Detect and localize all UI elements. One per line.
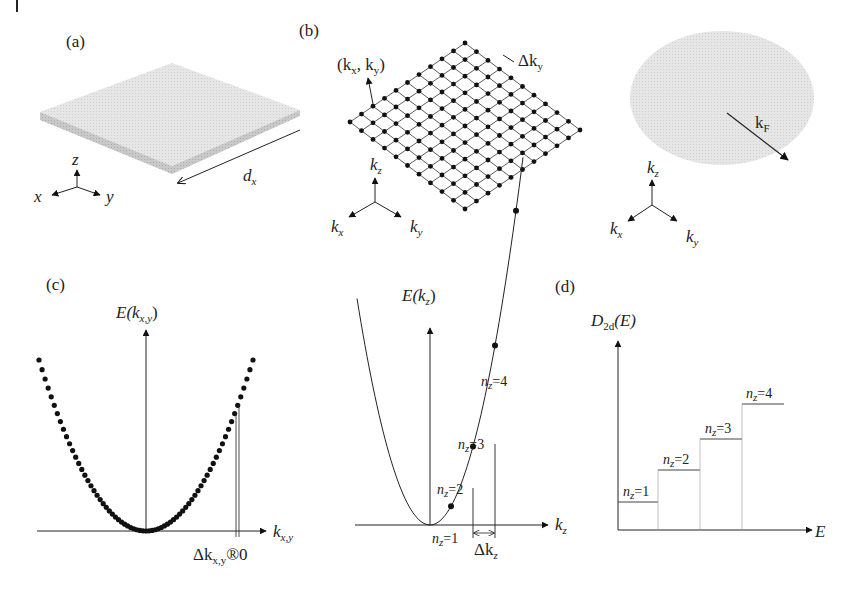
dispersion-plot-kxy: E(kx,y) kx,y Δkx,y®0	[36, 303, 293, 566]
axis-x-label: x	[33, 187, 42, 206]
energy-kz-label: E(kz)	[401, 286, 436, 307]
lattice-point-arrow	[368, 78, 373, 104]
panel-a: (a) dx z x y	[33, 32, 300, 206]
delta-kz-label: Δkz	[474, 540, 498, 561]
panel-b: (b) (kx, ky) Δky kz kx ky	[299, 21, 582, 238]
fermi-disk	[630, 31, 814, 165]
slab	[40, 63, 300, 174]
dos-axis-label: D2d(E)	[590, 311, 636, 332]
k-axes-fermi: kz kx ky	[610, 158, 699, 248]
svg-text:kz: kz	[647, 158, 660, 179]
delta-k-annotation: Δkx,y®0	[193, 545, 248, 566]
kxy-axis-label: kx,y	[273, 522, 293, 543]
step-label-nz4: nz=4	[746, 386, 772, 403]
panel-a-label: (a)	[66, 32, 85, 51]
energy-axis-d-label: E	[814, 522, 826, 541]
step-label-nz2: nz=2	[663, 452, 689, 469]
panel-b-fermi-disk: kF kz kx ky	[610, 31, 814, 248]
level-label-nz4: nz=4	[481, 374, 507, 391]
axis-ky-label: ky	[410, 217, 423, 238]
axis-kz-label: kz	[370, 155, 383, 176]
panel-c: (c) E(kx,y) kx,y Δkx,y®0 E(kz) kz Δkz nz…	[36, 157, 567, 566]
level-label-nz3: nz=3	[458, 437, 484, 454]
xyz-axes: z x y	[33, 150, 114, 206]
spacing-tick	[503, 55, 514, 62]
energy-axis-label: E(kx,y)	[115, 303, 158, 324]
axis-kx-label: kx	[331, 217, 344, 238]
svg-text:ky: ky	[686, 227, 699, 248]
step-label-nz3: nz=3	[705, 421, 731, 438]
kz-axis-label: kz	[555, 515, 568, 536]
lattice-label: (kx, ky)	[337, 55, 385, 76]
thickness-label: dx	[243, 166, 257, 187]
level-label-nz2: nz=2	[437, 482, 463, 499]
spacing-label: Δky	[518, 51, 543, 72]
dispersion-plot-kz: E(kz) kz Δkz nz=1 nz=2 nz=3 nz=4	[355, 157, 568, 561]
kz-parabola	[357, 157, 523, 525]
level-label-nz1: nz=1	[432, 531, 458, 548]
dos-steps	[618, 404, 784, 530]
svg-text:kx: kx	[610, 219, 623, 240]
axis-y-label: y	[104, 187, 114, 206]
quantum-well-figure: (a) dx z x y (b) (kx, ky) Δky	[0, 0, 855, 593]
panel-c-label: (c)	[46, 275, 65, 294]
panel-d-label: (d)	[555, 277, 575, 296]
kz-level-points	[448, 208, 519, 510]
axis-z-label: z	[71, 150, 79, 169]
panel-b-label: (b)	[299, 21, 319, 40]
step-label-nz1: nz=1	[623, 484, 649, 501]
panel-d: (d) D2d(E) E nz=1 nz=2 nz=3 nz=4	[555, 277, 826, 541]
